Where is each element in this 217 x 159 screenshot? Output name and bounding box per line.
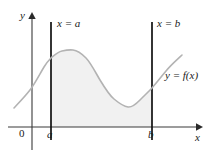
figure-canvas: y x 0 a b x = a x = b y = f(x): [0, 0, 217, 159]
origin-label: 0: [19, 128, 25, 139]
x-axis-arrowhead: [196, 123, 203, 131]
x-axis-label: x: [195, 132, 200, 143]
x-axis-tick-label-a: a: [47, 129, 53, 140]
x-axis-tick-label-b: b: [148, 129, 154, 140]
function-curve-label: y = f(x): [165, 70, 198, 81]
area-under-curve-shading: [51, 50, 152, 127]
vertical-line-a-label: x = a: [57, 18, 80, 29]
y-axis-label: y: [20, 10, 25, 21]
vertical-line-b-label: x = b: [157, 18, 180, 29]
y-axis-arrowhead: [28, 12, 35, 19]
